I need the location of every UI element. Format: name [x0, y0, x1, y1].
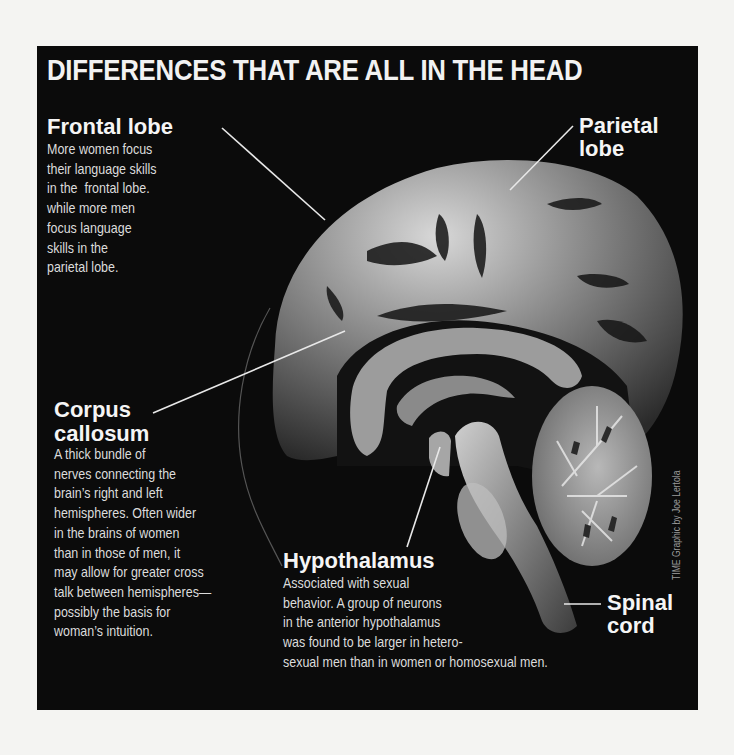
frontal-lobe-description: More women focus their language skills i… — [47, 140, 157, 278]
frontal-lobe-heading: Frontal lobe — [47, 115, 173, 138]
graphic-credit: TIME Graphic by Joe Lertola — [671, 471, 682, 580]
graphic-title: DIFFERENCES THAT ARE ALL IN THE HEAD — [47, 48, 582, 92]
cerebellum — [532, 386, 652, 566]
infographic-panel: DIFFERENCES THAT ARE ALL IN THE HEAD Fro… — [37, 46, 698, 710]
parietal-lobe-heading-line1: Parietal — [579, 114, 659, 137]
corpus-callosum-heading-line2: callosum — [54, 422, 149, 445]
hypothalamus-heading: Hypothalamus — [283, 549, 435, 572]
parietal-lobe-heading-line2: lobe — [579, 137, 624, 160]
corpus-callosum-description: A thick bundle of nerves connecting the … — [54, 445, 211, 642]
spinal-cord-heading-line2: cord — [607, 614, 655, 637]
spinal-cord-heading-line1: Spinal — [607, 591, 673, 614]
frontal-leader-line — [222, 128, 325, 220]
corpus-callosum-heading-line1: Corpus — [54, 398, 131, 421]
hypothalamus-description: Associated with sexual behavior. A group… — [283, 574, 548, 673]
